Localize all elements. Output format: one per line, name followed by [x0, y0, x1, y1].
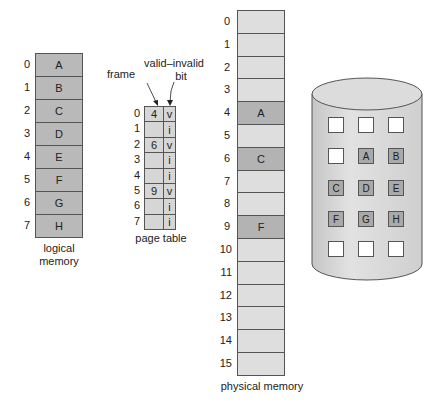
page-table-frame-cell — [144, 121, 164, 137]
disk-page-slot — [328, 241, 344, 257]
physical-frame-cell — [237, 192, 285, 216]
physical-frame-cell — [237, 10, 285, 34]
disk-page-slot — [328, 148, 344, 164]
physical-frame-index: 3 — [218, 83, 230, 95]
logical-page-index: 0 — [16, 58, 30, 70]
page-table-valid-bit-cell: i — [163, 152, 176, 168]
disk-page-slot: A — [358, 148, 374, 164]
logical-page-cell: B — [35, 76, 83, 100]
page-table-valid-bit-cell: i — [163, 168, 176, 184]
logical-page-cell: F — [35, 168, 83, 192]
logical-page-index: 1 — [16, 81, 30, 93]
physical-frame-index: 14 — [216, 334, 232, 346]
disk-page-slot: E — [388, 180, 404, 196]
physical-frame-index: 0 — [218, 15, 230, 27]
disk-page-slot — [388, 117, 404, 133]
disk-page-slot — [328, 117, 344, 133]
physical-frame-cell — [237, 238, 285, 262]
physical-frame-cell — [237, 170, 285, 194]
page-table-index: 6 — [126, 199, 140, 211]
header-arrows — [130, 76, 190, 110]
page-table-index: 7 — [126, 215, 140, 227]
page-table-valid-bit-cell: i — [163, 214, 176, 230]
physical-frame-index: 7 — [218, 175, 230, 187]
disk-page-slot: H — [388, 211, 404, 227]
page-table-index: 1 — [126, 122, 140, 134]
physical-frame-cell — [237, 78, 285, 102]
physical-frame-cell: A — [237, 101, 285, 125]
physical-frame-cell — [237, 352, 285, 376]
physical-frame-index: 2 — [218, 61, 230, 73]
physical-frame-cell — [237, 261, 285, 285]
frame-arrow-icon — [147, 83, 158, 106]
page-table-frame-cell — [144, 214, 164, 230]
valid-invalid-bit-header-line1: valid–invalid — [134, 57, 214, 70]
page-table-index: 3 — [126, 153, 140, 165]
disk-page-slot: B — [388, 148, 404, 164]
page-table-label: page table — [128, 232, 194, 245]
disk-page-slot — [358, 117, 374, 133]
physical-frame-cell — [237, 284, 285, 308]
logical-page-index: 5 — [16, 173, 30, 185]
physical-memory-label: physical memory — [214, 380, 310, 393]
page-table-frame-cell — [144, 198, 164, 214]
physical-frame-index: 13 — [216, 311, 232, 323]
logical-page-cell: E — [35, 145, 83, 169]
disk-page-slot: C — [328, 180, 344, 196]
physical-frame-index: 9 — [218, 220, 230, 232]
disk-page-slot: D — [358, 180, 374, 196]
logical-page-cell: D — [35, 122, 83, 146]
page-table-valid-bit-cell: v — [163, 137, 176, 153]
logical-page-index: 6 — [16, 196, 30, 208]
page-table-frame-cell — [144, 168, 164, 184]
page-table-index: 2 — [126, 138, 140, 150]
disk-page-slot — [388, 241, 404, 257]
physical-frame-cell — [237, 124, 285, 148]
logical-page-index: 4 — [16, 150, 30, 162]
physical-frame-cell — [237, 306, 285, 330]
logical-page-index: 7 — [16, 219, 30, 231]
physical-frame-cell — [237, 56, 285, 80]
page-table-valid-bit-cell: v — [163, 106, 176, 122]
page-table-valid-bit-cell: i — [163, 198, 176, 214]
physical-frame-cell: F — [237, 215, 285, 239]
logical-page-cell: H — [35, 214, 83, 238]
physical-frame-index: 12 — [216, 289, 232, 301]
logical-page-index: 2 — [16, 104, 30, 116]
physical-frame-index: 6 — [218, 152, 230, 164]
physical-frame-index: 1 — [218, 38, 230, 50]
page-table-valid-bit-cell: v — [163, 183, 176, 199]
page-table-index: 0 — [126, 107, 140, 119]
page-table-frame-cell: 6 — [144, 137, 164, 153]
page-table-frame-cell: 4 — [144, 106, 164, 122]
page-table-valid-bit-cell: i — [163, 121, 176, 137]
page-table-index: 5 — [126, 184, 140, 196]
physical-frame-index: 8 — [218, 197, 230, 209]
page-table-frame-cell: 9 — [144, 183, 164, 199]
physical-frame-index: 5 — [218, 129, 230, 141]
physical-frame-index: 15 — [216, 357, 232, 369]
disk-page-slot: F — [328, 211, 344, 227]
logical-page-cell: A — [35, 53, 83, 77]
logical-page-cell: C — [35, 99, 83, 123]
physical-frame-index: 10 — [216, 243, 232, 255]
page-table-index: 4 — [126, 169, 140, 181]
physical-frame-cell: C — [237, 147, 285, 171]
logical-memory-label: logical memory — [28, 242, 90, 268]
logical-memory-label-line2: memory — [28, 255, 90, 268]
disk-page-slot: G — [358, 211, 374, 227]
logical-page-cell: G — [35, 191, 83, 215]
disk-page-slot — [358, 241, 374, 257]
logical-page-index: 3 — [16, 127, 30, 139]
physical-frame-cell — [237, 329, 285, 353]
bit-arrow-icon — [167, 82, 174, 106]
physical-frame-cell — [237, 33, 285, 57]
page-table-frame-cell — [144, 152, 164, 168]
logical-memory-label-line1: logical — [28, 242, 90, 255]
physical-frame-index: 4 — [218, 106, 230, 118]
physical-frame-index: 11 — [216, 266, 232, 278]
